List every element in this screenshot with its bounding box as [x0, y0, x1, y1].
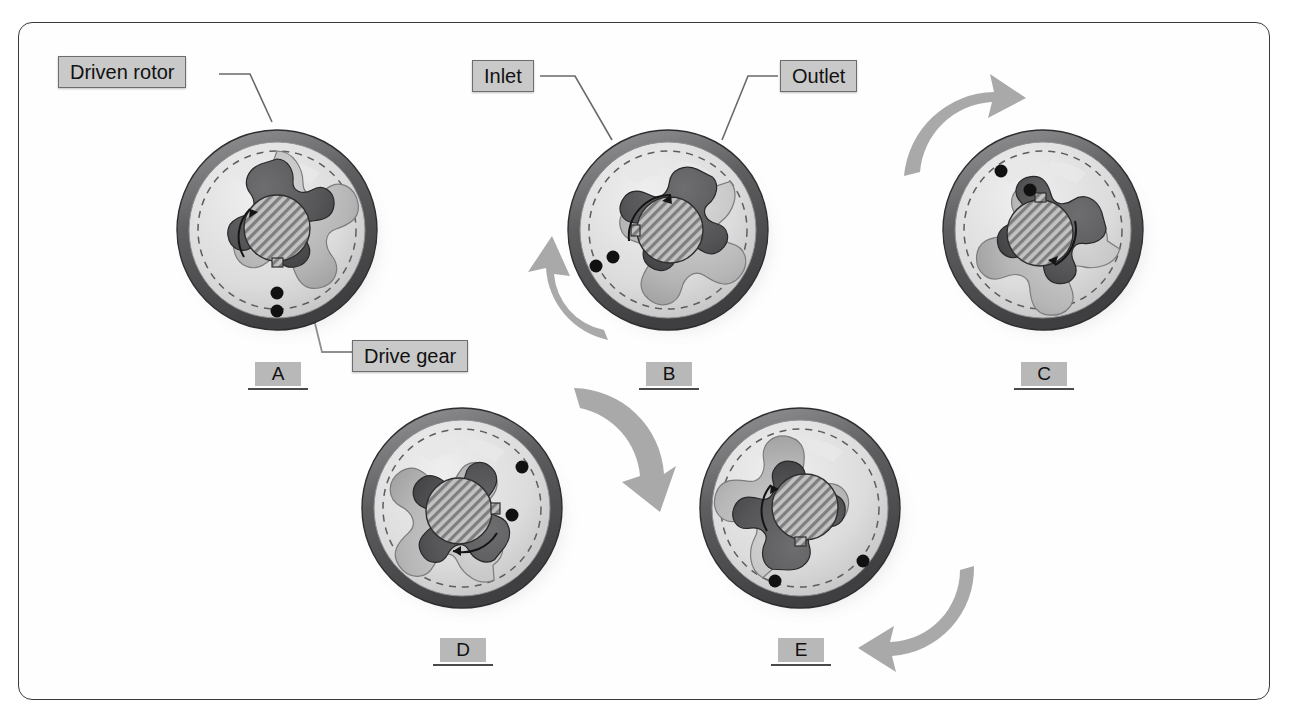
- callout-label: Inlet: [484, 65, 522, 87]
- gerotor-panel-D: [357, 403, 567, 613]
- rotation-arrow-C: [898, 72, 1028, 182]
- gerotor-pump-figure: Gerotor pump operation sequence Driven r…: [0, 0, 1297, 728]
- callout-label: Driven rotor: [70, 61, 174, 83]
- callout-inlet: Inlet: [472, 60, 534, 92]
- callout-label: Drive gear: [364, 345, 456, 367]
- index-dot: [516, 461, 529, 474]
- index-dot: [271, 305, 284, 318]
- index-dot: [271, 287, 284, 300]
- panel-tag-D: D: [440, 638, 486, 662]
- panel-letter: E: [795, 639, 808, 660]
- panel-tag-E: E: [778, 638, 824, 662]
- panel-rule-A: [248, 388, 308, 390]
- panel-letter: A: [272, 363, 285, 384]
- panel-rule-D: [433, 664, 493, 666]
- panel-letter: B: [663, 363, 676, 384]
- index-dot: [1024, 184, 1037, 197]
- callout-label: Outlet: [792, 65, 845, 87]
- panel-tag-A: A: [255, 362, 301, 386]
- panel-rule-C: [1014, 388, 1074, 390]
- callout-outlet: Outlet: [780, 60, 857, 92]
- gerotor-panel-A: [172, 125, 382, 335]
- callout-driven-rotor: Driven rotor: [58, 56, 186, 88]
- rotation-arrow-B: [512, 228, 622, 348]
- rotation-arrow-D: [568, 382, 678, 532]
- panel-letter: D: [456, 639, 470, 660]
- panel-letter: C: [1037, 363, 1051, 384]
- index-dot: [506, 509, 519, 522]
- panel-tag-C: C: [1021, 362, 1067, 386]
- index-dot: [769, 575, 782, 588]
- rotation-arrow-E: [856, 560, 986, 680]
- panel-rule-E: [771, 664, 831, 666]
- callout-drive-gear: Drive gear: [352, 340, 468, 372]
